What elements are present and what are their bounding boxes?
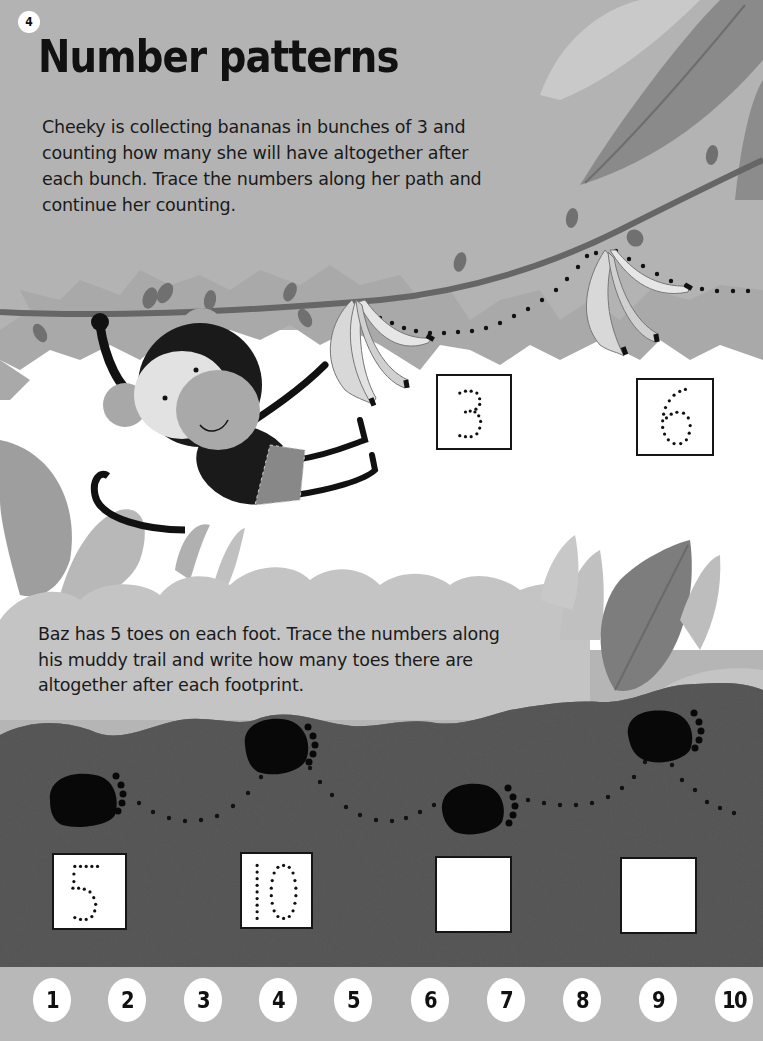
dotted-digit-5 — [54, 855, 125, 928]
page-number-badge: 4 — [18, 11, 40, 33]
number-line-6: 6 — [411, 978, 449, 1022]
banana-answer-box-1[interactable] — [436, 374, 512, 450]
dotted-digit-3 — [438, 376, 510, 448]
number-line-3: 3 — [184, 978, 222, 1022]
banana-instructions: Cheeky is collecting bananas in bunches … — [42, 114, 512, 218]
number-line: 1 2 3 4 5 6 7 8 9 10 — [0, 978, 763, 1028]
number-line-10: 10 — [715, 978, 753, 1022]
worksheet-page: 4 Number patterns Cheeky is collecting b… — [0, 0, 763, 1041]
dotted-number-10 — [242, 854, 311, 927]
number-line-7: 7 — [487, 978, 525, 1022]
footprint-answer-box-3[interactable] — [435, 856, 512, 933]
footprint-instructions: Baz has 5 toes on each foot. Trace the n… — [38, 622, 508, 699]
footprint-answer-box-2[interactable] — [240, 852, 313, 929]
footprint-answer-box-4[interactable] — [620, 857, 697, 934]
number-line-8: 8 — [563, 978, 601, 1022]
number-line-5: 5 — [334, 978, 372, 1022]
number-line-4: 4 — [259, 978, 297, 1022]
page-title: Number patterns — [38, 34, 399, 79]
number-line-1: 1 — [33, 978, 71, 1022]
banana-answer-box-2[interactable] — [636, 378, 714, 456]
footprint-answer-box-1[interactable] — [52, 853, 127, 930]
dotted-digit-6 — [638, 380, 712, 454]
number-line-9: 9 — [639, 978, 677, 1022]
top-right-leaves — [540, 0, 763, 200]
number-line-2: 2 — [108, 978, 146, 1022]
